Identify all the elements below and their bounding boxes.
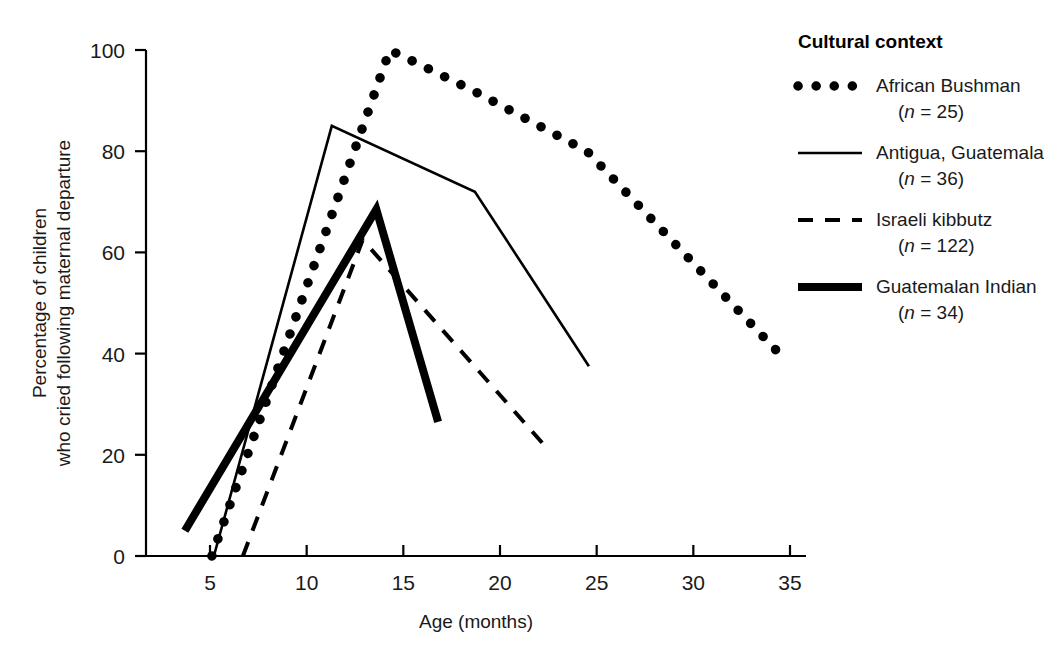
y-tick-label: 80 — [102, 140, 125, 163]
y-axis-title: Percentage of children who cried followi… — [29, 140, 74, 467]
x-axis-ticks — [210, 545, 790, 556]
legend-title: Cultural context — [798, 31, 943, 52]
legend-label: African Bushman — [876, 75, 1021, 96]
legend: Cultural context African Bushman(n = 25)… — [798, 31, 1044, 323]
y-axis-title-line1: Percentage of children — [29, 208, 50, 398]
legend-sample-size: (n = 25) — [898, 101, 964, 122]
legend-label: Guatemalan Indian — [876, 276, 1037, 297]
x-axis-tick-labels: 5101520253035 — [204, 571, 802, 594]
y-tick-label: 20 — [102, 444, 125, 467]
x-tick-label: 5 — [204, 571, 216, 594]
cry-percentage-line-chart: 020406080100 5101520253035 Age (months) … — [0, 0, 1059, 659]
legend-label: Antigua, Guatemala — [876, 142, 1044, 163]
y-axis-ticks — [135, 50, 146, 556]
legend-sample-size: (n = 36) — [898, 168, 964, 189]
series-line-antigua-guatemala — [214, 126, 589, 556]
x-tick-label: 15 — [392, 571, 415, 594]
legend-item-antigua-guatemala[interactable]: Antigua, Guatemala(n = 36) — [798, 142, 1044, 189]
legend-label: Israeli kibbutz — [876, 209, 992, 230]
legend-entries: African Bushman(n = 25)Antigua, Guatemal… — [798, 75, 1044, 323]
y-tick-label: 0 — [113, 545, 125, 568]
chart-figure: 020406080100 5101520253035 Age (months) … — [0, 0, 1059, 659]
legend-item-african-bushman[interactable]: African Bushman(n = 25) — [798, 75, 1021, 122]
series-line-african-bushman — [212, 50, 784, 556]
x-tick-label: 20 — [488, 571, 511, 594]
axes-group — [146, 50, 806, 556]
data-series-group — [185, 50, 784, 556]
y-axis-title-line2: who cried following maternal departure — [53, 140, 74, 467]
x-tick-label: 10 — [295, 571, 318, 594]
y-axis-tick-labels: 020406080100 — [90, 39, 125, 568]
x-tick-label: 30 — [682, 571, 705, 594]
legend-item-israeli-kibbutz[interactable]: Israeli kibbutz(n = 122) — [798, 209, 992, 256]
legend-item-guatemalan-indian[interactable]: Guatemalan Indian(n = 34) — [798, 276, 1037, 323]
x-axis-title: Age (months) — [419, 611, 533, 632]
x-tick-label: 35 — [778, 571, 801, 594]
x-tick-label: 25 — [585, 571, 608, 594]
legend-sample-size: (n = 34) — [898, 302, 964, 323]
y-tick-label: 60 — [102, 241, 125, 264]
legend-sample-size: (n = 122) — [898, 235, 975, 256]
y-tick-label: 100 — [90, 39, 125, 62]
y-tick-label: 40 — [102, 343, 125, 366]
